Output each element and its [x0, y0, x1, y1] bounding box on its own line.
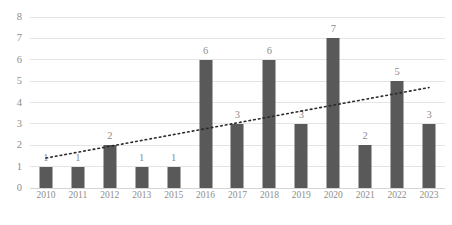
- x-axis: 2010201120122013201520162017201820192020…: [30, 191, 445, 207]
- y-axis-tick-label: 4: [17, 97, 22, 108]
- bar[interactable]: [167, 167, 180, 188]
- bar-value-label: 3: [426, 110, 431, 121]
- bar-value-label: 1: [75, 153, 80, 164]
- bar-group[interactable]: 5: [381, 17, 413, 188]
- bar-value-label: 3: [299, 110, 304, 121]
- x-axis-tick-label: 2016: [196, 191, 215, 201]
- bar-group[interactable]: 3: [222, 17, 254, 188]
- bar[interactable]: [423, 124, 436, 188]
- bar-value-label: 1: [43, 153, 48, 164]
- bar-group[interactable]: 6: [253, 17, 285, 188]
- y-axis-tick-label: 0: [17, 183, 22, 194]
- y-axis-tick-label: 6: [17, 55, 22, 66]
- y-axis-tick-label: 2: [17, 140, 22, 151]
- bar[interactable]: [295, 124, 308, 188]
- x-axis-tick-label: 2020: [324, 191, 343, 201]
- x-axis-tick-label: 2023: [420, 191, 439, 201]
- y-axis-tick-label: 7: [17, 33, 22, 44]
- x-axis-tick-label: 2022: [388, 191, 407, 201]
- bar-value-label: 6: [203, 46, 208, 57]
- y-axis-tick-label: 5: [17, 76, 22, 87]
- bar-chart: 012345678 1121163637253 2010201120122013…: [0, 0, 452, 225]
- bar-group[interactable]: 1: [158, 17, 190, 188]
- bar[interactable]: [327, 38, 340, 188]
- y-axis-tick-label: 3: [17, 119, 22, 130]
- bar[interactable]: [391, 81, 404, 188]
- x-axis-tick-label: 2015: [164, 191, 183, 201]
- x-axis-tick-label: 2018: [260, 191, 279, 201]
- bar-group[interactable]: 6: [190, 17, 222, 188]
- bar[interactable]: [359, 145, 372, 188]
- y-axis: 012345678: [0, 17, 28, 188]
- x-axis-tick-label: 2021: [356, 191, 375, 201]
- bar-value-label: 1: [171, 153, 176, 164]
- y-axis-tick-label: 1: [17, 161, 22, 172]
- x-axis-tick-label: 2010: [36, 191, 55, 201]
- bar-value-label: 2: [107, 131, 112, 142]
- x-axis-tick-label: 2017: [228, 191, 247, 201]
- x-axis-tick-label: 2013: [132, 191, 151, 201]
- bar[interactable]: [263, 60, 276, 188]
- bar-value-label: 3: [235, 110, 240, 121]
- bar-value-label: 5: [394, 67, 399, 78]
- bar-value-label: 6: [267, 46, 272, 57]
- bar-group[interactable]: 3: [285, 17, 317, 188]
- bar-group[interactable]: 1: [62, 17, 94, 188]
- bar[interactable]: [103, 145, 116, 188]
- bar-value-label: 1: [139, 153, 144, 164]
- bar[interactable]: [231, 124, 244, 188]
- bar-group[interactable]: 3: [413, 17, 445, 188]
- bar-group[interactable]: 2: [94, 17, 126, 188]
- x-axis-tick-label: 2019: [292, 191, 311, 201]
- bar[interactable]: [71, 167, 84, 188]
- bar-value-label: 7: [331, 24, 336, 35]
- x-axis-tick-label: 2012: [100, 191, 119, 201]
- bars-layer: 1121163637253: [30, 17, 445, 188]
- bar-group[interactable]: 1: [30, 17, 62, 188]
- bar[interactable]: [199, 60, 212, 188]
- x-axis-tick-label: 2011: [69, 191, 88, 201]
- bar-value-label: 2: [363, 131, 368, 142]
- bar-group[interactable]: 1: [126, 17, 158, 188]
- y-axis-tick-label: 8: [17, 12, 22, 23]
- bar-group[interactable]: 2: [349, 17, 381, 188]
- bar[interactable]: [39, 167, 52, 188]
- bar-group[interactable]: 7: [317, 17, 349, 188]
- bar[interactable]: [135, 167, 148, 188]
